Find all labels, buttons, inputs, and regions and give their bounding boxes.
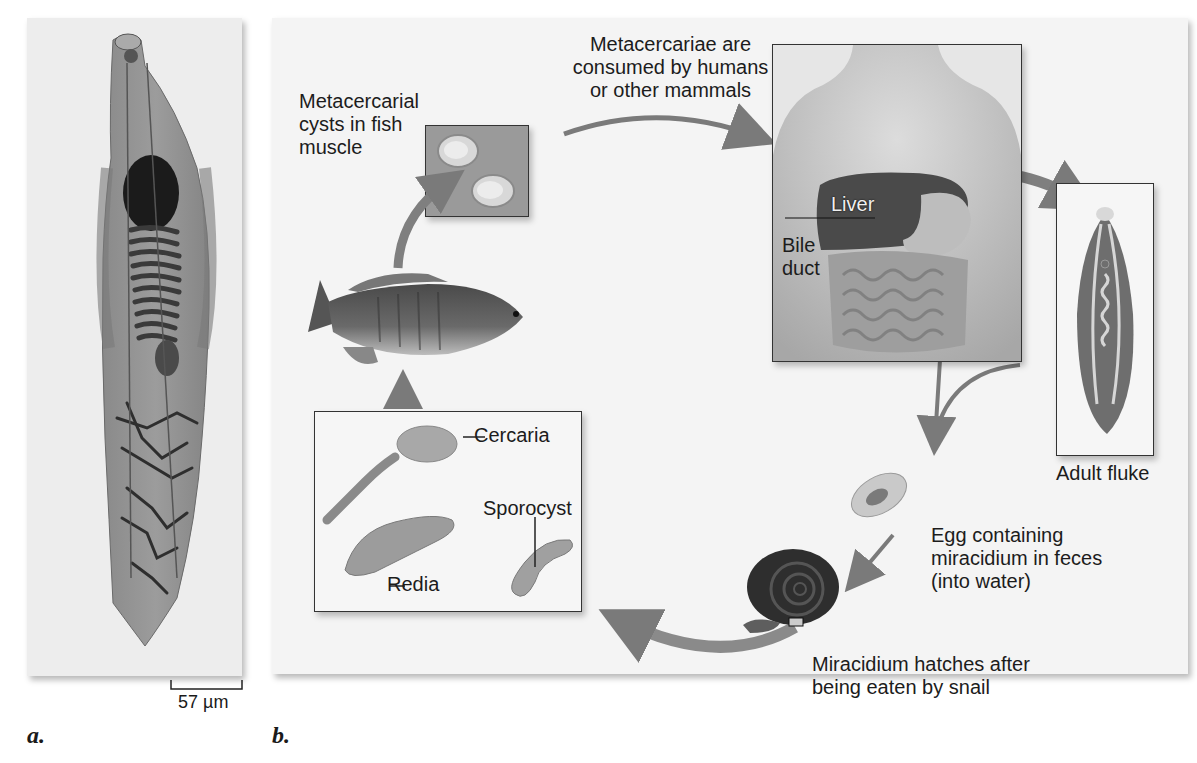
liver-label: Liver <box>831 193 874 216</box>
miracidium-inset-marker <box>789 618 803 626</box>
intestines-icon <box>828 251 968 353</box>
arrow-egg-to-snail <box>855 535 893 580</box>
bile-duct-label: Bile duct <box>782 234 820 280</box>
fish-icon <box>298 262 538 382</box>
egg-label: Egg containing miracidium in feces (into… <box>931 524 1102 593</box>
arrow-to-human <box>564 118 758 137</box>
miracidium-label: Miracidium hatches after being eaten by … <box>812 653 1030 699</box>
adult-fluke-label: Adult fluke <box>1056 462 1149 485</box>
sporocyst-icon <box>512 540 573 597</box>
redia-label: Redia <box>387 573 439 596</box>
human-torso-box <box>772 44 1022 362</box>
cercaria-label: Cercaria <box>474 424 550 447</box>
adult-fluke-box <box>1056 183 1154 456</box>
egg-icon <box>845 465 915 525</box>
arrow-fluke-to-egg <box>940 365 1020 420</box>
arrow-human-to-egg <box>935 360 940 440</box>
cercaria-icon <box>327 457 395 520</box>
snail-icon <box>735 545 845 645</box>
sporocyst-label: Sporocyst <box>483 497 572 520</box>
human-torso-icon <box>773 45 1021 361</box>
arrow-fish-to-cysts <box>398 180 450 268</box>
adult-fluke-icon <box>1057 184 1153 455</box>
redia-icon <box>345 516 454 575</box>
